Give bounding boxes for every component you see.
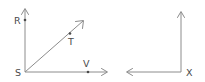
point-marker-v xyxy=(87,71,90,74)
geometry-figure-svg: R S T V X xyxy=(0,0,205,82)
point-marker-t xyxy=(69,32,72,35)
diagram-angle-rsv: R S T V xyxy=(14,9,108,79)
ray-sv xyxy=(25,69,108,76)
ray-st xyxy=(25,21,84,73)
label-vertex-s: S xyxy=(15,67,21,78)
ray-st-line xyxy=(25,21,83,72)
diagram-right-angle-x: X xyxy=(127,12,194,79)
label-point-r: R xyxy=(14,15,21,26)
point-marker-r xyxy=(24,19,27,22)
ray-sr xyxy=(22,9,29,73)
label-point-t: T xyxy=(67,36,74,47)
ray-x-left xyxy=(127,69,182,76)
ray-x-up xyxy=(178,12,185,73)
geometry-figure-canvas: R S T V X xyxy=(0,0,205,82)
label-point-v: V xyxy=(83,58,90,69)
label-vertex-x: X xyxy=(186,67,193,78)
